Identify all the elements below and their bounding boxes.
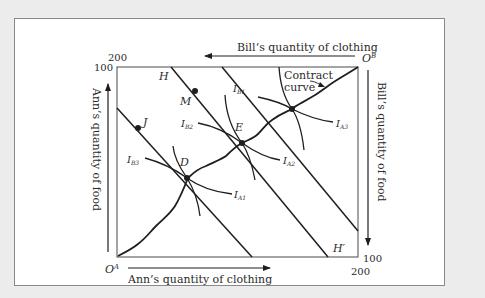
edgeworth-box-diagram: Bill’s quantity of clothing Ann’s quanti… <box>0 0 485 298</box>
right-axis-label: Bill’s quantity of food <box>375 82 388 202</box>
label-m: M <box>179 95 192 108</box>
tick-100-bottom-right: 100 <box>363 253 382 264</box>
tick-200-bottom-right: 200 <box>351 266 370 277</box>
left-axis-label: Ann’s quantity of food <box>90 87 103 211</box>
label-ib2: IB2 <box>180 118 193 130</box>
figure-background: Bill’s quantity of clothing Ann’s quanti… <box>0 0 485 298</box>
origin-a: OA <box>105 263 119 276</box>
point-m-dot <box>192 88 198 94</box>
tick-100-top-left: 100 <box>94 62 113 73</box>
label-e: E <box>234 121 243 134</box>
label-d: D <box>179 156 189 169</box>
label-ia1: IA1 <box>233 189 246 201</box>
label-ib3: IB3 <box>126 154 139 166</box>
indifference-curve-a3-top <box>258 97 333 122</box>
label-j: J <box>141 116 148 129</box>
top-axis-label: Bill’s quantity of clothing <box>237 41 378 54</box>
contract-curve-label-line2: curve <box>284 81 315 94</box>
label-ia3: IA3 <box>335 118 348 130</box>
label-ib1: IB1 <box>232 83 245 95</box>
origin-b: OB <box>362 52 376 65</box>
label-h-prime: H′ <box>332 242 346 255</box>
contract-curve-pointer-head <box>318 82 325 87</box>
contract-curve <box>118 67 358 256</box>
point-tangency-top-dot <box>289 106 295 112</box>
price-line-hh <box>171 67 328 257</box>
point-j-dot <box>135 125 141 131</box>
bottom-axis-label: Ann’s quantity of clothing <box>127 273 272 286</box>
point-d-dot <box>184 175 190 181</box>
label-h: H <box>158 70 169 83</box>
point-e-dot <box>239 140 245 146</box>
label-ia2: IA2 <box>282 155 295 167</box>
